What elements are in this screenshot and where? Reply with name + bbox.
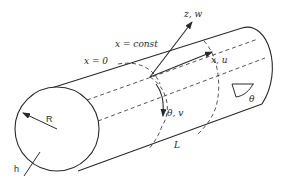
radius-label: R — [46, 114, 53, 124]
cylinder-diagram: z, w x, u θ, v x = const x = 0 θ R h L — [0, 0, 281, 186]
x-zero-label: x = 0 — [84, 56, 108, 66]
thickness-label: h — [14, 164, 19, 174]
theta-axis-label: θ, v — [167, 108, 183, 118]
diagram-svg: z, w x, u θ, v x = const x = 0 θ R h L — [0, 0, 281, 186]
x-axis-label: x, u — [211, 55, 228, 65]
hidden-lines — [87, 39, 265, 150]
length-label: L — [173, 140, 180, 150]
z-axis-label: z, w — [183, 9, 202, 19]
x-const-label: x = const — [115, 39, 158, 49]
theta-angle-label: θ — [249, 94, 255, 104]
